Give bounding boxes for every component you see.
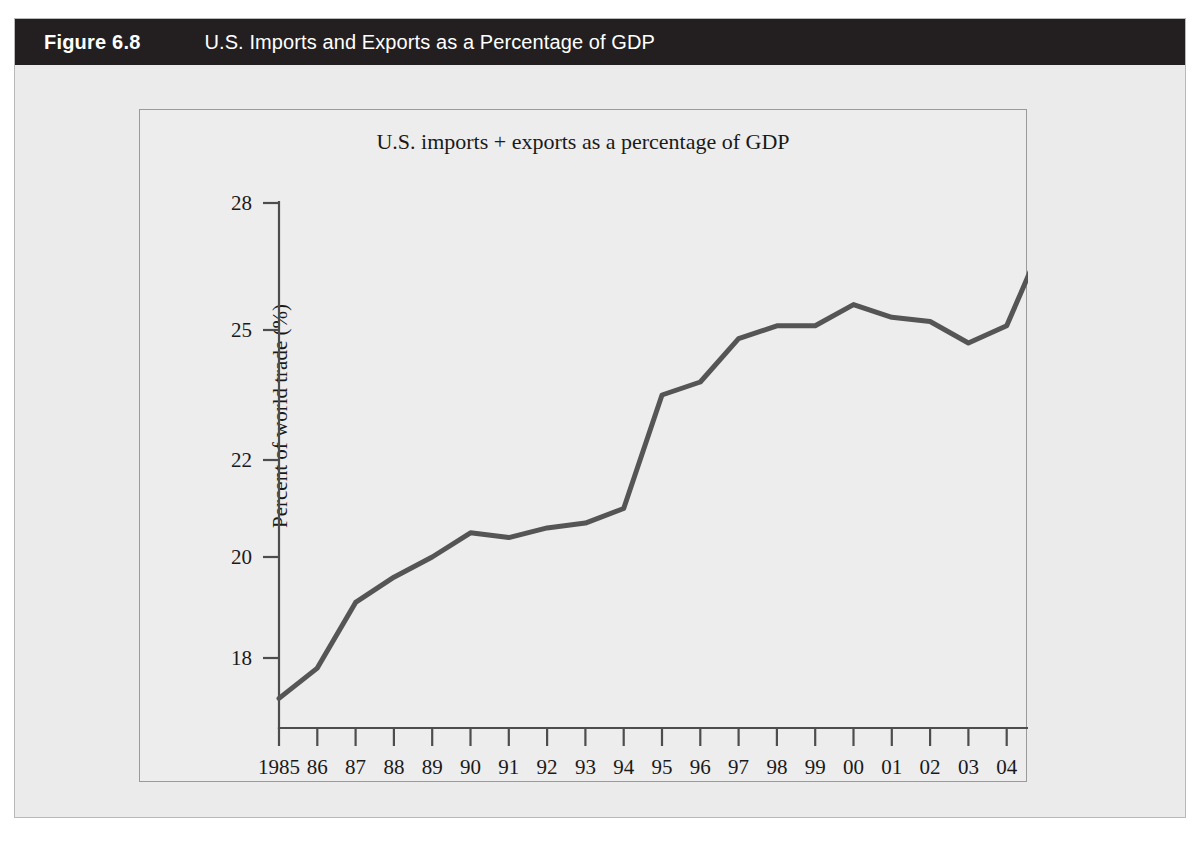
y-tick-group: 2825222018 (231, 191, 279, 670)
x-tick-label: 90 (460, 755, 481, 779)
x-tick-label: 88 (383, 755, 404, 779)
x-tick-label: 04 (996, 755, 1018, 779)
x-tick-label: 91 (498, 755, 519, 779)
figure-container: Figure 6.8 U.S. Imports and Exports as a… (14, 18, 1186, 818)
x-tick-label: 02 (920, 755, 941, 779)
figure-number: Figure 6.8 (44, 31, 140, 54)
y-tick-label: 28 (231, 191, 252, 215)
line-chart-plot: 2825222018 19858687888990919293949596979… (140, 110, 1028, 783)
x-tick-label: 86 (307, 755, 328, 779)
x-tick-label: 1985 (258, 755, 300, 779)
x-tick-label: 92 (537, 755, 558, 779)
y-tick-label: 18 (231, 646, 252, 670)
figure-header-bar: Figure 6.8 U.S. Imports and Exports as a… (15, 19, 1185, 65)
x-tick-label: 03 (958, 755, 979, 779)
x-tick-label: 89 (422, 755, 443, 779)
chart-frame: U.S. imports + exports as a percentage o… (139, 109, 1027, 782)
figure-caption: U.S. Imports and Exports as a Percentage… (204, 31, 654, 54)
x-tick-label: 95 (652, 755, 673, 779)
x-tick-label: 93 (575, 755, 596, 779)
y-tick-label: 22 (231, 448, 252, 472)
x-tick-label: 97 (728, 755, 749, 779)
x-tick-label: 94 (613, 755, 635, 779)
x-tick-label: 00 (843, 755, 864, 779)
x-tick-group: 1985868788899091929394959697989900010203… (258, 728, 1028, 779)
y-tick-label: 20 (231, 545, 252, 569)
x-tick-label: 01 (881, 755, 902, 779)
axis-group (279, 202, 1028, 728)
y-tick-label: 25 (231, 318, 252, 342)
data-series-line (279, 237, 1028, 699)
x-tick-label: 99 (805, 755, 826, 779)
x-tick-label: 96 (690, 755, 711, 779)
x-tick-label: 87 (345, 755, 366, 779)
x-tick-label: 98 (766, 755, 787, 779)
